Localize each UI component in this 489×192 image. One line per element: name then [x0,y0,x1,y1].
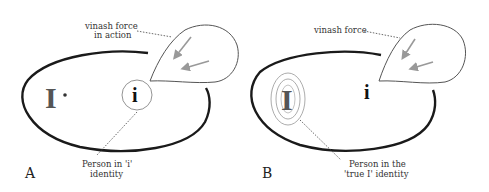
person-label-b: Person in the [349,159,406,169]
leader-line [97,112,137,155]
leader-line [300,120,341,160]
panel-letter-a: A [24,165,36,181]
force-label-b: vinash force [313,25,367,35]
ego-symbol-a: i [132,84,138,106]
diagram-canvas: I i vinash force in action Person in 'i'… [0,0,489,192]
panel-letter-b: B [262,165,272,181]
leader-line [137,31,172,37]
person-label-a-line2: identity [90,169,123,179]
force-label-a-line2: in action [94,30,132,40]
panel-a: I i vinash force in action Person in 'i'… [22,21,238,181]
dot-marker [63,93,67,97]
true-self-symbol-b: I [281,83,293,116]
ego-symbol-b: i [364,81,370,103]
vinash-force-blob-b [379,24,466,83]
leader-line [364,31,400,38]
true-self-symbol-a: I [45,81,57,114]
vinash-force-blob-a [150,25,238,83]
person-label-a: Person in 'i' [82,159,132,169]
panel-b: I i vinash force Person in the 'true I' … [251,24,465,181]
person-label-b-line2: 'true I' identity [344,169,409,179]
